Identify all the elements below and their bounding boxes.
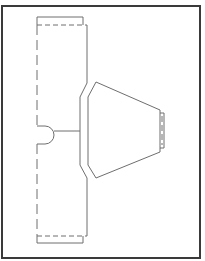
outer-frame [2, 6, 200, 258]
pattern-diagram [0, 0, 205, 261]
diagram-canvas [0, 0, 205, 261]
